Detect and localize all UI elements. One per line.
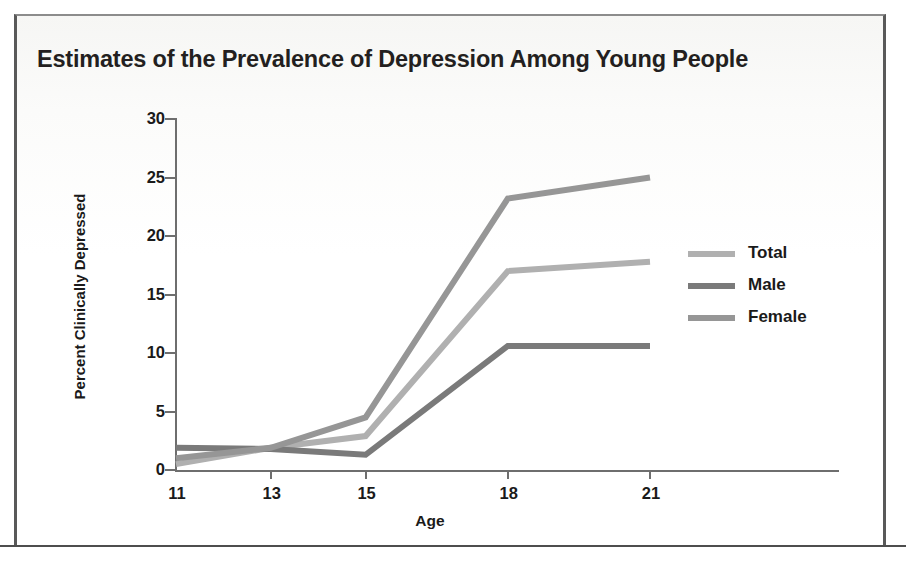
x-tick-mark [270, 470, 272, 479]
y-tick-label-text: 0 [125, 461, 165, 477]
legend-swatch-total [688, 251, 735, 257]
y-tick-label-text: 25 [125, 169, 165, 185]
y-tick-mark [165, 411, 175, 413]
legend-swatch-male [688, 283, 735, 289]
x-axis-title: Age [370, 512, 490, 530]
y-tick-mark [165, 352, 175, 354]
y-tick-label-text: 10 [125, 344, 165, 360]
y-tick-label: 15 [110, 286, 165, 302]
y-tick-mark [165, 235, 175, 237]
x-tick-label: 15 [337, 484, 397, 503]
series-line-total [176, 262, 650, 464]
x-tick-mark [649, 470, 651, 479]
y-tick-mark [165, 177, 175, 179]
y-tick-label: 10 [110, 344, 165, 360]
x-tick-label: 11 [147, 484, 207, 503]
x-tick-label: 18 [479, 484, 539, 503]
chart-legend: TotalMaleFemale [688, 240, 868, 336]
y-tick-label: 30 [110, 110, 165, 126]
x-tick-mark [507, 470, 509, 479]
y-tick-mark [165, 469, 175, 471]
legend-label-male: Male [748, 275, 786, 295]
y-axis-title: Percent Clinically Depressed [71, 182, 88, 412]
legend-item-total[interactable]: Total [688, 240, 868, 272]
y-tick-label: 25 [110, 169, 165, 185]
legend-label-total: Total [748, 243, 787, 263]
x-tick-label: 21 [621, 484, 681, 503]
y-tick-label: 20 [110, 227, 165, 243]
y-tick-label: 0 [110, 461, 165, 477]
y-tick-label-text: 30 [125, 110, 165, 126]
y-axis-line [175, 118, 177, 472]
y-tick-label-text: 15 [125, 286, 165, 302]
series-line-male [176, 346, 650, 455]
legend-item-male[interactable]: Male [688, 272, 868, 304]
y-tick-label: 5 [110, 403, 165, 419]
y-tick-mark [165, 118, 175, 120]
legend-item-female[interactable]: Female [688, 304, 868, 336]
chart-page: Estimates of the Prevalence of Depressio… [0, 0, 906, 567]
plot-area: 051015202530 1113151821 Percent Clinical… [0, 0, 906, 567]
legend-swatch-female [688, 315, 735, 321]
x-tick-label: 13 [242, 484, 302, 503]
x-tick-mark [365, 470, 367, 479]
y-tick-mark [165, 294, 175, 296]
legend-label-female: Female [748, 307, 807, 327]
y-tick-label-text: 5 [125, 403, 165, 419]
series-line-female [176, 178, 650, 459]
y-tick-label-text: 20 [125, 227, 165, 243]
